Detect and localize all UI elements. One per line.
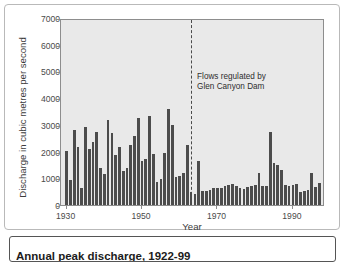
bar	[292, 185, 295, 205]
bar	[69, 180, 72, 205]
bar	[194, 194, 197, 205]
bar	[276, 165, 279, 205]
bar	[126, 168, 129, 205]
y-tick-label: 1000	[26, 174, 60, 184]
y-tick-label: 6000	[26, 41, 60, 51]
y-tick-label: 0	[26, 201, 60, 211]
y-tick-label: 2000	[26, 148, 60, 158]
bar	[250, 186, 253, 205]
bar	[227, 185, 230, 205]
bar	[265, 186, 268, 205]
bar	[182, 173, 185, 205]
bar	[77, 147, 80, 205]
bar	[144, 159, 147, 205]
x-tick-mark	[66, 206, 67, 209]
figure-caption-box: Annual peak discharge, 1922-99	[9, 236, 336, 262]
bar	[197, 161, 200, 205]
bar	[160, 179, 163, 205]
bar	[280, 170, 283, 205]
bar	[95, 132, 98, 205]
bar	[186, 145, 189, 205]
bar	[295, 184, 298, 205]
bar	[235, 186, 238, 205]
bar	[99, 168, 102, 205]
bar	[118, 147, 121, 205]
regulation-annotation: Flows regulated by Glen Canyon Dam	[197, 72, 266, 92]
bar	[92, 142, 95, 205]
bar	[133, 136, 136, 205]
bar	[261, 186, 264, 205]
bar	[212, 188, 215, 205]
bar	[307, 190, 310, 205]
bar	[163, 153, 166, 205]
x-tick-label: 1990	[282, 211, 301, 221]
bar	[224, 186, 227, 205]
bar	[209, 190, 212, 205]
bar	[243, 189, 246, 205]
bar	[167, 109, 170, 205]
x-tick-label: 1950	[131, 211, 150, 221]
y-tick-label: 5000	[26, 67, 60, 77]
bar	[80, 188, 83, 205]
bar	[107, 120, 110, 205]
bar	[318, 183, 321, 205]
bar	[122, 171, 125, 205]
bar	[269, 132, 272, 205]
bar	[111, 133, 114, 205]
x-tick-mark	[141, 206, 142, 209]
bar	[216, 188, 219, 205]
x-tick-mark	[292, 206, 293, 209]
bar	[284, 185, 287, 205]
bar	[103, 174, 106, 205]
bar	[84, 127, 87, 205]
bar	[175, 177, 178, 205]
bar	[141, 161, 144, 205]
annotation-line-1: Flows regulated by	[197, 72, 266, 82]
bar	[129, 145, 132, 205]
bar	[156, 182, 159, 205]
y-tick-label: 3000	[26, 121, 60, 131]
bar	[273, 163, 276, 205]
x-tick-label: 1970	[207, 211, 226, 221]
regulation-divider-line	[191, 20, 192, 205]
y-axis-tick-labels: 01000200030004000500060007000	[21, 19, 60, 206]
x-tick-label: 1930	[56, 211, 75, 221]
bar	[288, 186, 291, 205]
bar	[310, 173, 313, 205]
bar	[299, 192, 302, 205]
y-tick-label: 7000	[26, 14, 60, 24]
bar	[88, 149, 91, 205]
bar	[314, 187, 317, 205]
bar	[220, 188, 223, 205]
bar	[114, 155, 117, 205]
bar	[205, 191, 208, 205]
bar	[73, 130, 76, 205]
bar	[246, 187, 249, 205]
bar	[231, 184, 234, 205]
bar	[254, 185, 257, 205]
figure-caption-text: Annual peak discharge, 1922-99	[16, 250, 191, 262]
annotation-line-2: Glen Canyon Dam	[197, 82, 266, 92]
bar	[65, 151, 68, 205]
x-tick-mark	[216, 206, 217, 209]
y-tick-label: 4000	[26, 94, 60, 104]
plot-area: Flows regulated by Glen Canyon Dam	[60, 19, 324, 206]
x-axis-title: Year	[60, 221, 324, 232]
bar	[171, 125, 174, 205]
bar	[148, 116, 151, 205]
bar	[178, 176, 181, 205]
bar	[258, 173, 261, 205]
bar	[137, 118, 140, 205]
bar	[239, 188, 242, 205]
bar	[152, 154, 155, 205]
bar	[201, 191, 204, 205]
bar	[303, 191, 306, 205]
